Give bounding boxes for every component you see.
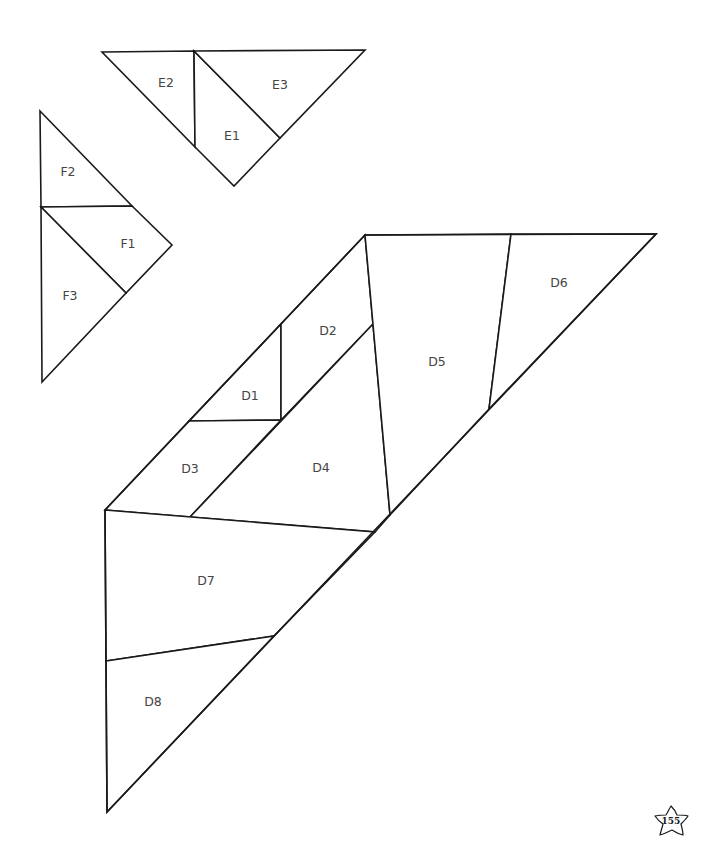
page-number-badge: 155 xyxy=(655,806,688,835)
piece-e2 xyxy=(102,51,195,147)
group-e: E2 E1 E3 xyxy=(102,50,365,186)
label-d8: D8 xyxy=(144,694,162,709)
label-d4: D4 xyxy=(312,460,330,475)
label-e2: E2 xyxy=(158,75,174,90)
label-d5: D5 xyxy=(428,354,446,369)
label-e1: E1 xyxy=(224,128,240,143)
label-e3: E3 xyxy=(272,77,288,92)
label-d1: D1 xyxy=(241,388,259,403)
label-d6: D6 xyxy=(550,275,568,290)
piece-d7 xyxy=(105,510,375,661)
group-d: D1 D2 D3 D4 D5 D6 D7 D8 xyxy=(105,234,656,812)
page-number: 155 xyxy=(662,816,681,826)
group-f: F2 F1 F3 xyxy=(40,111,172,382)
label-f1: F1 xyxy=(120,236,135,251)
label-d2: D2 xyxy=(319,323,337,338)
piece-d5 xyxy=(365,234,511,515)
label-f3: F3 xyxy=(62,288,77,303)
label-f2: F2 xyxy=(60,164,75,179)
pattern-canvas: E2 E1 E3 F2 F1 F3 D1 D2 D3 D4 D5 xyxy=(0,0,707,855)
piece-f2 xyxy=(40,111,132,207)
label-d3: D3 xyxy=(181,461,199,476)
label-d7: D7 xyxy=(197,573,215,588)
